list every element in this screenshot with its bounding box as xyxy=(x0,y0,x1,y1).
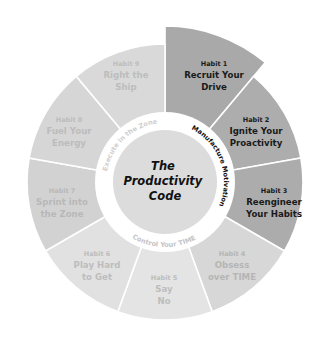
habit-title-line: Fuel Your xyxy=(46,126,92,136)
habit-number: Habit 1 xyxy=(201,60,228,68)
productivity-code-wheel: Manufacture MotivationControl Your TIMEE… xyxy=(0,0,322,341)
habit-title-line: Energy xyxy=(52,138,86,148)
habit-title-line: Ship xyxy=(115,82,136,92)
habit-number: Habit 9 xyxy=(113,60,140,68)
habit-title-line: over TIME xyxy=(208,272,256,282)
habit-number: Habit 5 xyxy=(151,274,178,282)
habit-number: Habit 3 xyxy=(261,187,288,195)
habit-title-line: No xyxy=(157,296,170,306)
habit-number: Habit 2 xyxy=(243,116,270,124)
habit-title-line: Sprint into xyxy=(36,197,88,207)
habit-number: Habit 7 xyxy=(49,187,76,195)
habit-title-line: Play Hard xyxy=(74,260,121,270)
habit-title-line: the Zone xyxy=(40,209,83,219)
habit-title-line: Say xyxy=(155,284,173,294)
habit-title-line: Drive xyxy=(201,82,227,92)
habit-title-line: Ignite Your xyxy=(229,126,283,136)
habit-title-line: Reengineer xyxy=(246,197,302,207)
habit-number: Habit 8 xyxy=(56,116,83,124)
habit-title-line: Right the xyxy=(104,70,149,80)
center-title-line-1: The xyxy=(151,159,175,173)
habit-title-line: Obsess xyxy=(215,260,250,270)
habit-title-line: Your Habits xyxy=(245,209,302,219)
center-title-line-2: Productivity xyxy=(124,174,203,188)
habit-number: Habit 4 xyxy=(219,250,246,258)
habit-number: Habit 6 xyxy=(84,250,111,258)
center-title-line-3: Code xyxy=(149,189,182,203)
habit-title-line: Proactivity xyxy=(230,138,283,148)
habit-title-line: to Get xyxy=(82,272,112,282)
habit-title-line: Recruit Your xyxy=(184,70,244,80)
